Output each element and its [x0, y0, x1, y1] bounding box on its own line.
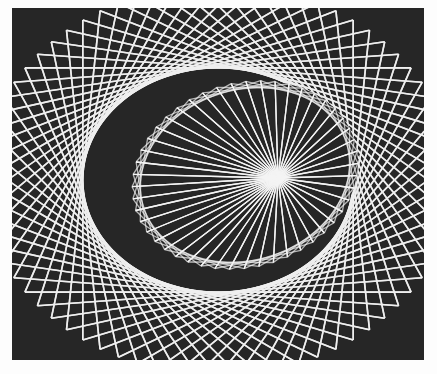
- photo-frame: [0, 0, 437, 374]
- string-art-image: [12, 8, 424, 360]
